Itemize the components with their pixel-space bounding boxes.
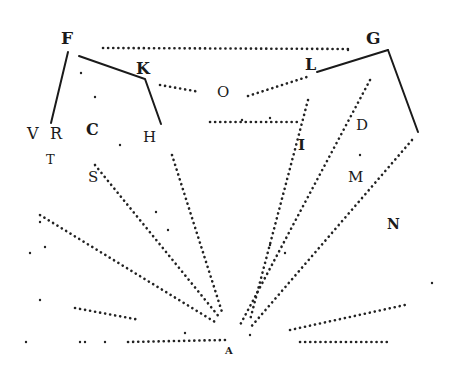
label-L: L <box>305 55 316 74</box>
line-L-G <box>317 50 388 72</box>
line-F-R <box>51 52 68 123</box>
label-D: D <box>356 116 368 134</box>
line-G-right <box>388 50 418 132</box>
dotted-K-O <box>160 85 200 92</box>
dotted-I-to-A <box>250 100 308 320</box>
label-O: O <box>217 83 229 101</box>
label-C: C <box>86 120 99 139</box>
dotted-C-to-A <box>95 165 220 318</box>
dotted-top-F-G <box>103 48 348 49</box>
label-T: T <box>46 152 55 167</box>
label-V: V <box>26 124 39 143</box>
dotted-lower-left-to-A <box>40 215 215 322</box>
dotted-lower-left-row <box>75 308 140 320</box>
dotted-O-L <box>248 76 310 96</box>
label-A: A <box>224 345 233 356</box>
label-S: S <box>88 168 98 186</box>
dotted-D-to-A <box>240 80 370 325</box>
label-M: M <box>348 168 363 186</box>
label-R: R <box>50 124 63 143</box>
dotted-right-to-A <box>250 140 412 328</box>
optics-diagram: F K O L G V R C H T S D I M N A <box>0 0 450 380</box>
label-H: H <box>143 128 156 146</box>
dotted-H-to-A <box>172 155 222 312</box>
dotted-lower-right-rising <box>290 305 405 330</box>
label-I: I <box>298 136 305 154</box>
dotted-bottom-left <box>128 340 225 342</box>
label-G: G <box>366 28 381 48</box>
label-F: F <box>61 28 73 48</box>
labels: F K O L G V R C H T S D I M N A <box>26 28 400 356</box>
label-K: K <box>136 59 151 78</box>
label-N: N <box>387 216 400 232</box>
